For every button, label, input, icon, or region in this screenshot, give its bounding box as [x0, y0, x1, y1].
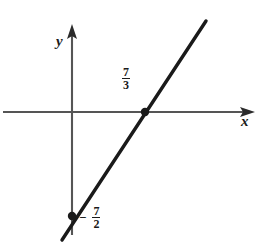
fraction-numerator: 7	[122, 66, 130, 78]
y-intercept-point	[68, 212, 76, 220]
y-intercept-label: − 7 2	[79, 205, 100, 230]
y-axis-label: y	[56, 34, 63, 49]
coordinate-plane-svg	[0, 0, 262, 245]
fraction-denominator: 2	[92, 217, 100, 230]
fraction-denominator: 3	[122, 78, 130, 91]
x-intercept-label: 7 3	[122, 66, 130, 91]
graph-figure: y x 7 3 − 7 2	[0, 0, 262, 245]
minus-sign: −	[79, 211, 86, 224]
x-intercept-point	[141, 108, 149, 116]
fraction-seven-thirds: 7 3	[122, 66, 130, 91]
x-axis-label: x	[241, 114, 249, 129]
fraction-numerator: 7	[92, 205, 100, 217]
fraction-seven-halves: 7 2	[92, 205, 100, 230]
